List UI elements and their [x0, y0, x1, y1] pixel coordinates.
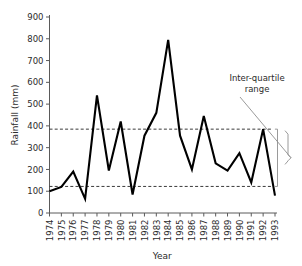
x-tick-label-1974: 1974: [45, 220, 55, 242]
y-tick-label-900: 900: [27, 12, 43, 22]
x-tick-label-1989: 1989: [223, 220, 233, 242]
y-axis-tick-marks: [46, 17, 50, 213]
x-tick-label-1986: 1986: [187, 220, 197, 242]
y-tick-label-500: 500: [27, 99, 43, 109]
x-axis-title: Year: [152, 251, 172, 261]
y-tick-label-100: 100: [27, 186, 43, 196]
x-tick-label-1984: 1984: [163, 220, 173, 242]
x-tick-label-1992: 1992: [258, 220, 268, 242]
x-tick-label-1983: 1983: [152, 220, 162, 242]
x-tick-label-1980: 1980: [116, 220, 126, 242]
rainfall-line-chart: 0100200300400500600700800900 19741975197…: [0, 0, 302, 266]
x-tick-label-1991: 1991: [246, 220, 256, 242]
annotation-leader-line: [240, 97, 291, 158]
x-tick-label-1979: 1979: [104, 220, 114, 242]
x-tick-label-1976: 1976: [68, 220, 78, 242]
y-axis-tick-labels: 0100200300400500600700800900: [27, 12, 43, 218]
annotation-text-line2: range: [245, 84, 270, 94]
x-tick-label-1982: 1982: [140, 220, 150, 242]
x-tick-label-1988: 1988: [211, 220, 221, 242]
x-tick-label-1975: 1975: [57, 220, 67, 242]
y-tick-label-800: 800: [27, 34, 43, 44]
y-tick-label-600: 600: [27, 77, 43, 87]
annotation-text-line1: Inter-quartile: [229, 73, 284, 83]
y-tick-label-400: 400: [27, 121, 43, 131]
x-tick-label-1987: 1987: [199, 220, 209, 242]
x-tick-label-1977: 1977: [80, 220, 90, 242]
x-axis-tick-marks: [50, 213, 276, 217]
x-tick-label-1993: 1993: [270, 220, 280, 242]
x-tick-label-1990: 1990: [235, 220, 245, 242]
y-tick-label-300: 300: [27, 143, 43, 153]
x-axis-tick-labels: 1974197519761977197819791980198119821983…: [45, 220, 281, 242]
x-tick-label-1985: 1985: [175, 220, 185, 242]
y-axis-title: Rainfall (mm): [10, 85, 20, 146]
iqr-bracket-outer: [285, 131, 291, 165]
x-tick-label-1978: 1978: [92, 220, 102, 242]
iqr-bracket-inner: [275, 129, 278, 186]
y-tick-label-700: 700: [27, 56, 43, 66]
rainfall-series-line: [50, 40, 276, 199]
y-tick-label-0: 0: [38, 208, 43, 218]
chart-canvas: 0100200300400500600700800900 19741975197…: [0, 0, 302, 266]
y-tick-label-200: 200: [27, 165, 43, 175]
x-tick-label-1981: 1981: [128, 220, 138, 242]
